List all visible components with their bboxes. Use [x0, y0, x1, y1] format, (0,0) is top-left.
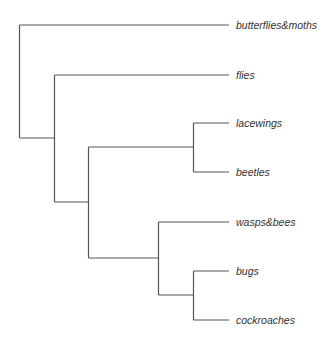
leaf-label-lacewings: lacewings — [236, 117, 282, 129]
node-main-split — [89, 147, 194, 258]
root-node — [20, 25, 230, 138]
leaf-label-bugs: bugs — [236, 265, 259, 277]
leaf-label-flies: flies — [236, 69, 255, 81]
leaf-label-beetles: beetles — [236, 166, 270, 178]
leaf-label-butterflies-moths: butterflies&moths — [236, 19, 317, 31]
node-bugs-cockroaches — [194, 271, 230, 320]
leaf-label-wasps-bees: wasps&bees — [236, 216, 296, 228]
leaf-label-cockroaches: cockroaches — [236, 314, 295, 326]
phylogenetic-tree — [0, 0, 333, 346]
node-flies-split — [55, 75, 230, 202]
node-lacewings-beetles — [194, 123, 230, 172]
